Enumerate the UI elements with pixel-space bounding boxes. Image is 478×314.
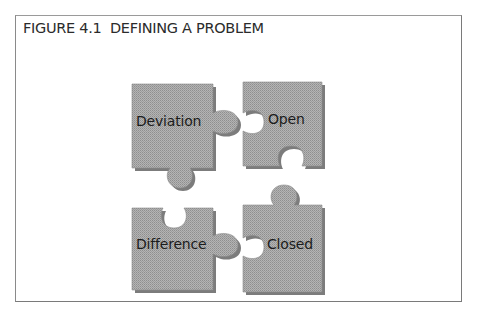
puzzle-diagram (0, 0, 478, 314)
piece-label-difference: Difference (136, 236, 206, 252)
piece-label-closed: Closed (267, 236, 313, 252)
piece-label-deviation: Deviation (136, 113, 201, 129)
puzzle-piece-deviation (132, 84, 241, 191)
piece-label-open: Open (268, 111, 305, 127)
